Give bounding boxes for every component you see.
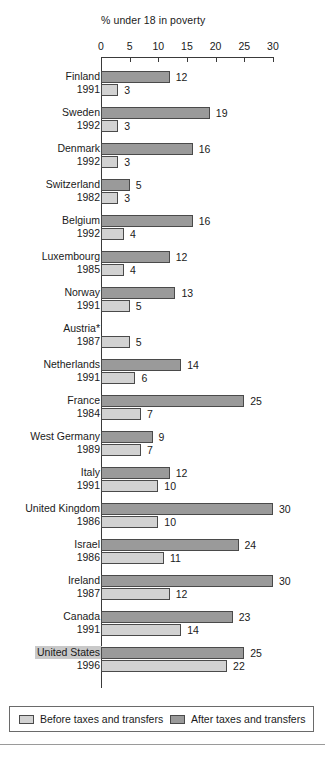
bar-before-taxes xyxy=(101,84,118,96)
chart-row: Switzerland198253 xyxy=(0,179,325,204)
chart-row: Norway1991135 xyxy=(0,287,325,312)
legend-item-before: Before taxes and transfers xyxy=(19,713,163,725)
row-year: 1982 xyxy=(46,191,100,204)
bar-before-taxes xyxy=(101,264,124,276)
bar-value-before: 12 xyxy=(176,589,188,600)
x-axis-tick-label: 10 xyxy=(146,40,170,52)
bar-after-taxes xyxy=(101,179,130,191)
bar-value-after: 30 xyxy=(279,576,291,587)
x-axis-end-cap xyxy=(273,57,274,62)
bar-value-after: 23 xyxy=(239,612,251,623)
bar-value-before: 5 xyxy=(136,337,142,348)
bar-value-before: 3 xyxy=(124,193,130,204)
bar-before-taxes xyxy=(101,624,181,636)
bar-before-taxes xyxy=(101,660,227,672)
bar-value-before: 10 xyxy=(164,481,176,492)
bar-value-after: 30 xyxy=(279,504,291,515)
bar-value-before: 3 xyxy=(124,121,130,132)
chart-row: Denmark1992163 xyxy=(0,143,325,168)
bar-value-after: 13 xyxy=(181,288,193,299)
bar-before-taxes xyxy=(101,156,118,168)
row-country-name: Luxembourg xyxy=(42,250,100,263)
row-year: 1991 xyxy=(66,83,100,96)
row-country-name: United Kingdom xyxy=(25,502,100,515)
x-axis-tick-label: 0 xyxy=(89,40,113,52)
legend-label-after: After taxes and transfers xyxy=(191,713,305,725)
row-country-name: Netherlands xyxy=(43,358,100,371)
x-axis-tick-mark xyxy=(187,57,188,62)
row-label: Switzerland1982 xyxy=(46,178,100,204)
row-year: 1992 xyxy=(57,155,100,168)
row-label: Ireland1987 xyxy=(68,574,100,600)
bar-value-before: 14 xyxy=(187,625,199,636)
row-label: Netherlands1991 xyxy=(43,358,100,384)
bar-value-after: 9 xyxy=(159,432,165,443)
bar-after-taxes xyxy=(101,287,175,299)
bar-value-after: 16 xyxy=(199,216,211,227)
row-year: 1996 xyxy=(37,659,100,672)
bar-value-before: 3 xyxy=(124,85,130,96)
bar-after-taxes xyxy=(101,395,244,407)
x-axis-tick-mark xyxy=(130,57,131,62)
bar-value-after: 12 xyxy=(176,252,188,263)
bar-value-after: 12 xyxy=(176,72,188,83)
row-country-name: Ireland xyxy=(68,574,100,587)
x-axis-tick-label: 25 xyxy=(232,40,256,52)
legend-label-before: Before taxes and transfers xyxy=(40,713,163,725)
bar-value-before: 6 xyxy=(141,373,147,384)
row-label: France1984 xyxy=(67,394,100,420)
row-label: Luxembourg1985 xyxy=(42,250,100,276)
bar-value-before: 11 xyxy=(170,553,181,564)
chart-row: France1984257 xyxy=(0,395,325,420)
x-axis-end-cap xyxy=(101,57,102,62)
x-axis-tick-mark xyxy=(244,57,245,62)
row-country-name: West Germany xyxy=(30,430,100,443)
bar-before-taxes xyxy=(101,120,118,132)
row-country-name: Israel xyxy=(74,538,100,551)
row-year: 1985 xyxy=(42,263,100,276)
row-country-name: Sweden xyxy=(62,106,100,119)
bottom-divider xyxy=(0,744,325,745)
bar-after-taxes xyxy=(101,359,181,371)
bar-value-after: 25 xyxy=(250,648,262,659)
legend-swatch-after-icon xyxy=(170,715,185,724)
bar-value-after: 12 xyxy=(176,468,188,479)
bar-after-taxes xyxy=(101,503,273,515)
x-axis-tick-label: 15 xyxy=(175,40,199,52)
bar-after-taxes xyxy=(101,611,233,623)
bar-before-taxes xyxy=(101,300,130,312)
chart-row: United States19962522 xyxy=(0,647,325,672)
bar-value-after: 14 xyxy=(187,360,199,371)
row-year: 1991 xyxy=(64,299,100,312)
row-label: Italy1991 xyxy=(77,466,100,492)
bar-value-before: 5 xyxy=(136,301,142,312)
bar-before-taxes xyxy=(101,408,141,420)
x-axis-tick-mark xyxy=(216,57,217,62)
bar-after-taxes xyxy=(101,575,273,587)
bar-value-before: 7 xyxy=(147,409,153,420)
x-axis-line xyxy=(101,57,273,58)
chart-legend: Before taxes and transfers After taxes a… xyxy=(9,706,314,732)
chart-row: Italy19911210 xyxy=(0,467,325,492)
chart-row: Belgium1992164 xyxy=(0,215,325,240)
chart-row: Luxembourg1985124 xyxy=(0,251,325,276)
x-axis-tick-label: 5 xyxy=(118,40,142,52)
row-label: Belgium1992 xyxy=(62,214,100,240)
x-axis-tick-label: 30 xyxy=(261,40,285,52)
row-year: 1992 xyxy=(62,227,100,240)
bar-before-taxes xyxy=(101,480,158,492)
row-country-name: Denmark xyxy=(57,142,100,155)
row-year: 1991 xyxy=(43,371,100,384)
row-country-name: Norway xyxy=(64,286,100,299)
bar-value-after: 5 xyxy=(136,180,142,191)
chart-row: Canada19912314 xyxy=(0,611,325,636)
bar-before-taxes xyxy=(101,552,164,564)
x-axis-tick-label: 20 xyxy=(204,40,228,52)
bar-before-taxes xyxy=(101,228,124,240)
bar-after-taxes xyxy=(101,539,239,551)
row-label: Denmark1992 xyxy=(57,142,100,168)
chart-row: Sweden1992193 xyxy=(0,107,325,132)
bar-after-taxes xyxy=(101,71,170,83)
chart-row: Austria*19875 xyxy=(0,323,325,348)
bar-value-before: 4 xyxy=(130,229,136,240)
